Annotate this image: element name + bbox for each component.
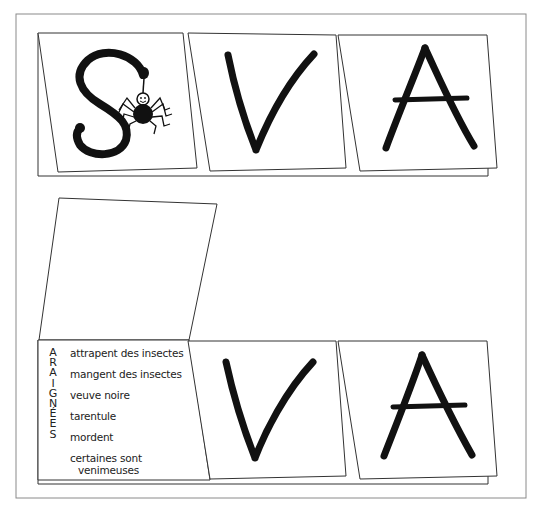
fact-item: attrapent des insectes — [70, 347, 184, 359]
card-v-bottom[interactable] — [188, 341, 346, 479]
fact-item: mangent des insectes — [70, 368, 182, 380]
top-row — [38, 33, 497, 176]
fact-item: venimeuses — [78, 464, 139, 476]
blank-flap[interactable] — [39, 198, 217, 340]
card-a[interactable] — [338, 35, 497, 171]
fact-item: certaines sont — [70, 452, 142, 464]
fact-item: tarentule — [70, 410, 116, 422]
card-v[interactable] — [188, 33, 346, 171]
acrostic-word: A R A I G N É E S — [45, 348, 61, 440]
fact-item: veuve noire — [70, 389, 130, 401]
acrostic-letter: S — [45, 430, 61, 440]
fact-item: mordent — [70, 431, 113, 443]
